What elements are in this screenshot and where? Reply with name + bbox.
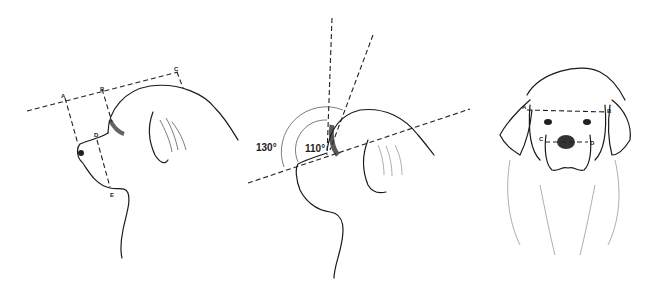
front-label-b: B bbox=[607, 108, 612, 114]
slanted-line bbox=[330, 35, 373, 150]
front-right-ear bbox=[609, 100, 631, 155]
middle-skull-outline bbox=[327, 110, 434, 155]
front-label-d: D bbox=[590, 140, 595, 146]
line-a bbox=[65, 98, 78, 144]
front-line-ab bbox=[527, 110, 607, 112]
front-label-a: A bbox=[522, 104, 527, 110]
middle-ear-fur bbox=[378, 145, 402, 176]
front-chest-fur bbox=[508, 160, 619, 255]
left-eye-shadow bbox=[110, 120, 124, 134]
left-muzzle-outline bbox=[78, 133, 129, 258]
left-nose bbox=[78, 150, 84, 156]
line-de bbox=[97, 140, 110, 187]
front-left-ear bbox=[500, 100, 532, 155]
front-face-left bbox=[529, 105, 540, 160]
arc-110 bbox=[295, 120, 327, 162]
profile-angles-panel: 130° 110° bbox=[248, 18, 470, 278]
label-b: B bbox=[100, 86, 105, 92]
front-skull-outline bbox=[527, 68, 625, 100]
front-face-right bbox=[595, 105, 606, 160]
line-c bbox=[177, 72, 183, 88]
front-measurements-panel: A B C D bbox=[500, 68, 630, 255]
label-e: E bbox=[110, 192, 114, 198]
skull-plane-line bbox=[248, 109, 470, 183]
middle-ear bbox=[364, 140, 387, 193]
left-ear-fur bbox=[160, 118, 186, 152]
profile-measurements-panel: A B C D E bbox=[27, 66, 238, 258]
middle-muzzle-outline bbox=[296, 153, 343, 278]
angle-110-label: 110° bbox=[305, 143, 325, 154]
label-a: A bbox=[61, 93, 66, 99]
middle-stop-shadow bbox=[331, 125, 338, 155]
left-ear bbox=[149, 112, 168, 163]
front-label-c: C bbox=[539, 136, 544, 142]
front-right-eye bbox=[583, 119, 591, 125]
label-d: D bbox=[94, 132, 99, 138]
angle-130-label: 130° bbox=[256, 142, 277, 153]
dog-head-diagram: A B C D E 130° 110° A B bbox=[0, 0, 661, 293]
label-c: C bbox=[174, 66, 179, 72]
front-left-eye bbox=[544, 119, 552, 125]
